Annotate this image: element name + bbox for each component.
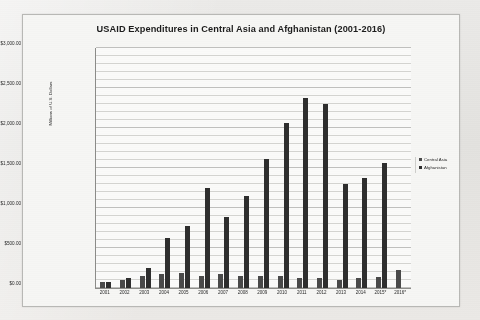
bar-central-asia[interactable] [100,282,105,288]
bar-central-asia[interactable] [120,280,125,288]
y-axis-tick-label: $0.00 [0,281,21,286]
bar-afghanistan[interactable] [224,217,229,288]
bar-group [372,48,392,288]
x-axis-tick-label: 2009 [253,290,273,295]
bar-central-asia[interactable] [396,270,401,288]
y-axis-tick-label: $1,000.00 [0,201,21,206]
bar-group [234,48,254,288]
x-axis-tick-label: 2010 [272,290,292,295]
chart-title: USAID Expenditures in Central Asia and A… [23,24,459,34]
bar-central-asia[interactable] [199,276,204,288]
bar-group [273,48,293,288]
bar-group [96,48,116,288]
y-axis-tick-label: $2,000.00 [0,121,21,126]
bar-group [116,48,136,288]
bar-afghanistan[interactable] [205,188,210,288]
bar-group [332,48,352,288]
bar-afghanistan[interactable] [382,163,387,288]
bar-central-asia[interactable] [159,274,164,288]
bar-central-asia[interactable] [317,278,322,288]
bar-afghanistan[interactable] [284,123,289,288]
bar-group [155,48,175,288]
bar-afghanistan[interactable] [303,98,308,288]
bar-group [254,48,274,288]
bar-central-asia[interactable] [376,277,381,288]
legend-swatch-icon [419,166,422,169]
y-axis-tick-label: $3,000.00 [0,41,21,46]
bar-afghanistan[interactable] [323,104,328,288]
bar-groups [96,48,411,288]
bar-group [135,48,155,288]
y-axis-tick-label: $2,500.00 [0,81,21,86]
y-axis-tick-label: $1,500.00 [0,161,21,166]
legend-item[interactable]: Afghanistan [419,165,463,170]
x-axis-tick-label: 2001 [95,290,115,295]
bar-afghanistan[interactable] [146,268,151,288]
x-axis-tick-label: 2014 [351,290,371,295]
bar-group [194,48,214,288]
x-axis-tick-label: 2013 [331,290,351,295]
bar-central-asia[interactable] [140,276,145,288]
bar-afghanistan[interactable] [343,184,348,288]
bar-group [313,48,333,288]
bar-afghanistan[interactable] [165,238,170,288]
legend-swatch-icon [419,158,422,161]
legend-label: Central Asia [424,157,447,162]
x-axis-tick-label: 2008 [233,290,253,295]
bar-afghanistan[interactable] [244,196,249,288]
bar-central-asia[interactable] [356,278,361,288]
bar-central-asia[interactable] [278,276,283,288]
chart-legend: Central AsiaAfghanistan [415,157,463,173]
chart-container: USAID Expenditures in Central Asia and A… [22,14,460,307]
x-axis-tick-label: 2016* [390,290,410,295]
x-axis-tick-label: 2007 [213,290,233,295]
x-axis-tick-label: 2006 [193,290,213,295]
x-axis-tick-label: 2002 [115,290,135,295]
legend-item[interactable]: Central Asia [419,157,463,162]
bar-group [293,48,313,288]
bar-group [175,48,195,288]
bar-central-asia[interactable] [218,274,223,288]
bar-afghanistan[interactable] [185,226,190,288]
bar-afghanistan[interactable] [362,178,367,288]
y-axis-title: Millions of U.S. Dollars [48,49,53,159]
legend-label: Afghanistan [424,165,447,170]
bar-group [214,48,234,288]
x-axis-tick-labels: 2001200220032004200520062007200820092010… [95,290,410,295]
x-axis-tick-label: 2005 [174,290,194,295]
bar-afghanistan[interactable] [126,278,131,288]
bar-central-asia[interactable] [179,273,184,288]
bar-afghanistan[interactable] [106,282,111,288]
bar-central-asia[interactable] [337,280,342,288]
bar-central-asia[interactable] [258,276,263,288]
x-axis-tick-label: 2004 [154,290,174,295]
bar-central-asia[interactable] [297,278,302,288]
plot-area: $3,000.00$2,500.00$2,000.00$1,500.00$1,0… [95,48,411,289]
x-axis-tick-label: 2003 [134,290,154,295]
y-axis-tick-label: $500.00 [0,241,21,246]
x-axis-tick-label: 2011 [292,290,312,295]
bar-group [352,48,372,288]
x-axis-tick-label: 2012 [312,290,332,295]
bar-central-asia[interactable] [238,276,243,288]
x-axis-tick-label: 2015* [371,290,391,295]
bar-afghanistan[interactable] [264,159,269,288]
bar-group [391,48,411,288]
